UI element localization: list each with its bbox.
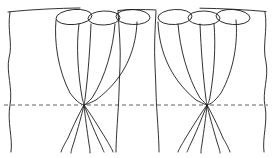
drawing-background bbox=[0, 0, 275, 158]
curtain-line-drawing: Curtain pinch-pleat elevation line drawi… bbox=[0, 0, 275, 158]
curtain-drawing-root: Curtain pinch-pleat elevation line drawi… bbox=[0, 0, 275, 158]
